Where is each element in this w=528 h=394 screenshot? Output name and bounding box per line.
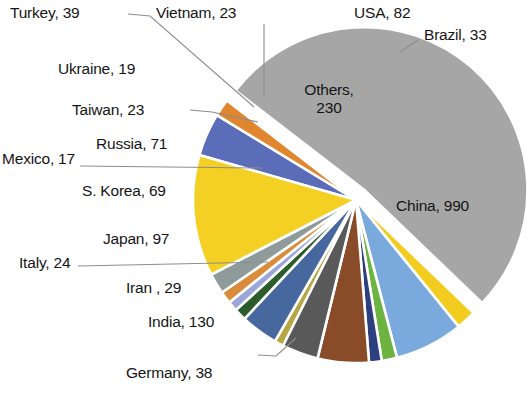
slice-label-iran: Iran , 29 <box>126 279 181 297</box>
slice-label-japan: Japan, 97 <box>103 230 169 248</box>
slice-label-usa: USA, 82 <box>354 4 410 22</box>
pie-slices-group <box>193 27 527 363</box>
slice-label-others: Others, 230 <box>296 81 362 118</box>
pie-chart: Turkey, 39 Vietnam, 23 Ukraine, 19 Taiwa… <box>0 0 528 394</box>
slice-label-vietnam: Vietnam, 23 <box>156 4 236 22</box>
slice-label-others-line2: 230 <box>316 99 341 116</box>
leader-line-turkey <box>128 14 254 107</box>
slice-label-skorea: S. Korea, 69 <box>82 182 166 200</box>
slice-label-turkey: Turkey, 39 <box>10 4 80 22</box>
slice-label-brazil: Brazil, 33 <box>424 26 487 44</box>
slice-label-india: India, 130 <box>148 313 214 331</box>
slice-label-ukraine: Ukraine, 19 <box>58 60 135 78</box>
slice-label-mexico: Mexico, 17 <box>2 150 75 168</box>
slice-label-russia: Russia, 71 <box>96 135 167 153</box>
slice-label-italy: Italy, 24 <box>19 254 70 272</box>
slice-label-taiwan: Taiwan, 23 <box>72 101 144 119</box>
slice-label-germany: Germany, 38 <box>126 364 212 382</box>
slice-label-china: China, 990 <box>396 197 469 215</box>
slice-label-others-line1: Others, <box>304 81 353 98</box>
